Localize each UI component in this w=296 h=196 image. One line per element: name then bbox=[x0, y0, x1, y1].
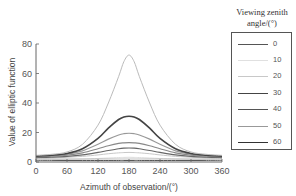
legend-swatch-10 bbox=[238, 60, 268, 61]
legend-title-line2: angle/(°) bbox=[228, 18, 296, 29]
legend-item-20: 20 bbox=[238, 71, 288, 81]
x-tick-label: 120 bbox=[90, 166, 105, 176]
y-tick-label: 0 bbox=[27, 157, 32, 167]
plot-lines bbox=[36, 55, 222, 160]
legend-swatch-0 bbox=[238, 44, 268, 45]
legend-swatch-60 bbox=[238, 142, 268, 143]
legend-label-40: 40 bbox=[273, 104, 281, 114]
legend-title-line1: Viewing zenith bbox=[228, 7, 296, 18]
legend-label-20: 20 bbox=[273, 71, 281, 81]
legend-item-0: 0 bbox=[238, 39, 288, 49]
y-tick-label: 40 bbox=[22, 98, 32, 108]
legend-swatch-40 bbox=[238, 109, 268, 110]
x-tick-label: 0 bbox=[33, 166, 38, 176]
x-axis-title: Azimuth of observation/(°) bbox=[80, 182, 178, 192]
x-tick-label: 300 bbox=[183, 166, 198, 176]
legend-item-50: 50 bbox=[238, 121, 288, 131]
y-axis-title: Value of elliptic function bbox=[7, 57, 17, 146]
legend-title: Viewing zenith angle/(°) bbox=[228, 7, 296, 29]
x-tick-label: 360 bbox=[214, 166, 229, 176]
y-tick-label: 20 bbox=[22, 128, 32, 138]
legend-swatch-50 bbox=[238, 126, 268, 127]
legend-label-30: 30 bbox=[273, 88, 281, 98]
legend-label-60: 60 bbox=[273, 137, 281, 147]
y-tick-label: 60 bbox=[22, 69, 32, 79]
legend-item-60: 60 bbox=[238, 137, 288, 147]
x-tick-label: 60 bbox=[62, 166, 72, 176]
series-line-60 bbox=[36, 116, 222, 156]
x-tick-label: 240 bbox=[152, 166, 167, 176]
series-line-70 bbox=[36, 55, 222, 155]
legend-item-10: 10 bbox=[238, 55, 288, 65]
y-tick-label: 80 bbox=[22, 39, 32, 49]
legend-label-0: 0 bbox=[273, 39, 277, 49]
legend-item-30: 30 bbox=[238, 88, 288, 98]
legend-label-10: 10 bbox=[273, 55, 281, 65]
legend-swatch-30 bbox=[238, 93, 268, 94]
legend-item-40: 40 bbox=[238, 104, 288, 114]
legend-swatch-20 bbox=[238, 76, 268, 77]
legend-label-50: 50 bbox=[273, 121, 281, 131]
x-tick-label: 180 bbox=[121, 166, 136, 176]
legend: 0 10 20 30 40 50 60 bbox=[231, 32, 292, 150]
axes bbox=[36, 44, 222, 162]
